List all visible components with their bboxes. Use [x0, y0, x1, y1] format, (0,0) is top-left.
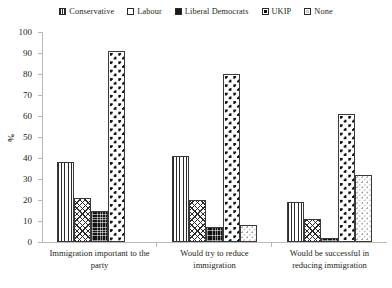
legend-label-conservative: Conservative: [69, 7, 114, 16]
bar-conservative-would-be-successful-in-reducing-immigration: [287, 202, 304, 242]
bar-groups: [42, 32, 387, 242]
bar-labour-immigration-important-to-the-party: [74, 198, 91, 242]
bar-labour-would-try-to-reduce-immigration: [189, 200, 206, 242]
bar-group-would-be-successful-in-reducing-immigration: [272, 32, 387, 242]
legend-swatch-labour: [127, 8, 134, 15]
y-tick-label-80: 80: [23, 70, 32, 79]
x-axis-category-labels: Immigration important to the partyWould …: [42, 248, 387, 271]
y-tick-label-50: 50: [23, 133, 32, 142]
legend-label-ukip: UKIP: [272, 7, 292, 16]
bar-none-would-be-successful-in-reducing-immigration: [355, 175, 372, 242]
group-separator-tick: [156, 242, 157, 247]
bar-none-would-try-to-reduce-immigration: [240, 225, 257, 242]
y-tick-label-90: 90: [23, 49, 32, 58]
y-tick-label-0: 0: [28, 238, 33, 247]
category-label-would-try-to-reduce-immigration: Would try to reduce immigration: [157, 248, 272, 271]
y-tick-0: 0: [38, 242, 42, 243]
x-axis-line: [42, 242, 387, 243]
legend-swatch-liberal-democrats: [175, 8, 182, 15]
bar-conservative-immigration-important-to-the-party: [57, 162, 74, 242]
bar-labour-would-be-successful-in-reducing-immigration: [304, 219, 321, 242]
legend-item-ukip: UKIP: [262, 7, 292, 16]
y-axis-label: %: [6, 133, 16, 142]
bar-conservative-would-try-to-reduce-immigration: [172, 156, 189, 242]
y-tick-label-70: 70: [23, 91, 32, 100]
category-label-would-be-successful-in-reducing-immigration: Would be successful in reducing immigrat…: [272, 248, 387, 271]
bar-group-would-try-to-reduce-immigration: [157, 32, 272, 242]
legend-swatch-ukip: [262, 8, 269, 15]
legend-item-labour: Labour: [127, 7, 162, 16]
plot-area: % 1009080706050403020100: [42, 32, 387, 243]
legend-swatch-none: [304, 8, 311, 15]
y-tick-label-10: 10: [23, 217, 32, 226]
group-separator-tick: [271, 242, 272, 247]
legend-swatch-conservative: [59, 8, 66, 15]
bar-ukip-immigration-important-to-the-party: [108, 51, 125, 242]
legend-item-conservative: Conservative: [59, 7, 114, 16]
y-tick-label-60: 60: [23, 112, 32, 121]
bar-liberal-democrats-immigration-important-to-the-party: [91, 211, 108, 243]
legend-label-none: None: [314, 7, 332, 16]
bar-liberal-democrats-would-be-successful-in-reducing-immigration: [321, 238, 338, 242]
y-tick-label-100: 100: [19, 28, 33, 37]
legend-item-liberal-democrats: Liberal Democrats: [175, 7, 249, 16]
grouped-bar-chart: Conservative Labour Liberal Democrats UK…: [0, 0, 392, 288]
legend-label-liberal-democrats: Liberal Democrats: [185, 7, 249, 16]
bar-ukip-would-try-to-reduce-immigration: [223, 74, 240, 242]
y-tick-label-30: 30: [23, 175, 32, 184]
y-tick-label-40: 40: [23, 154, 32, 163]
bar-liberal-democrats-would-try-to-reduce-immigration: [206, 227, 223, 242]
chart-legend: Conservative Labour Liberal Democrats UK…: [0, 7, 392, 16]
legend-item-none: None: [304, 7, 332, 16]
bar-group-immigration-important-to-the-party: [42, 32, 157, 242]
legend-label-labour: Labour: [137, 7, 162, 16]
bar-ukip-would-be-successful-in-reducing-immigration: [338, 114, 355, 242]
y-tick-label-20: 20: [23, 196, 32, 205]
category-label-immigration-important-to-the-party: Immigration important to the party: [42, 248, 157, 271]
